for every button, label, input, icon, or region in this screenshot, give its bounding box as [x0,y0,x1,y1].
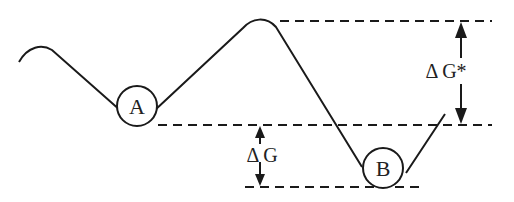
delta-g-activation-label: Δ G* [425,60,466,82]
state-b-marker: B [363,148,403,188]
delta-g-label: Δ G [246,144,277,166]
energy-diagram: A B Δ G* Δ G [0,0,514,202]
svg-text:B: B [376,156,391,181]
svg-text:A: A [129,94,145,119]
state-a-marker: A [117,86,157,126]
reference-lines [158,21,492,187]
